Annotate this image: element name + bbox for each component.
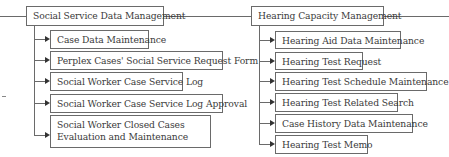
group-header-hearing-capacity: Hearing Capacity Management	[251, 6, 384, 26]
node-hearing-test-memo: Hearing Test Memo	[275, 135, 368, 154]
group-header-social-service: Social Service Data Management	[26, 6, 164, 26]
node-case-history-data-maintenance: Case History Data Maintenance	[275, 114, 413, 133]
node-closed-cases-evaluation: Social Worker Closed Cases Evaluation an…	[50, 115, 211, 148]
node-hearing-test-request: Hearing Test Request	[275, 52, 363, 70]
node-hearing-test-related-search: Hearing Test Related Search	[275, 93, 398, 112]
node-perplex-cases-request-form: Perplex Cases' Social Service Request Fo…	[50, 51, 223, 70]
node-social-worker-case-service-log: Social Worker Case Service Log	[50, 72, 183, 91]
node-case-service-log-approval: Social Worker Case Service Log Approval	[50, 94, 223, 113]
node-hearing-test-schedule: Hearing Test Schedule Maintenance	[275, 72, 427, 91]
side-mark	[2, 96, 6, 97]
node-hearing-aid-data-maintenance: Hearing Aid Data Maintenance	[275, 31, 401, 49]
right-tree-trunk	[259, 26, 260, 145]
node-case-data-maintenance: Case Data Maintenance	[50, 30, 149, 49]
